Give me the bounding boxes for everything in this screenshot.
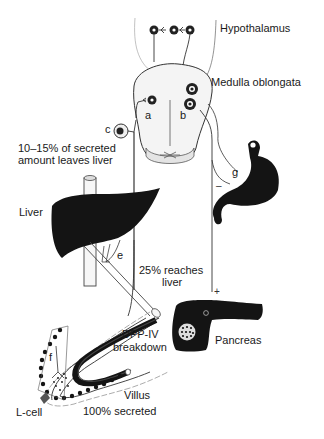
label-dpp-iv-line2: breakdown — [113, 341, 167, 353]
label-100-secreted: 100% secreted — [83, 405, 156, 417]
label-liver: Liver — [19, 206, 43, 218]
liver-shape — [51, 188, 160, 258]
pathway-letter-c: c — [105, 123, 111, 135]
glp1-pathway-diagram: Hypothalamus Medulla oblongata 10–15% of… — [0, 0, 324, 439]
label-medulla-oblongata: Medulla oblongata — [211, 76, 301, 88]
pathway-letter-a: a — [145, 109, 151, 121]
label-reaches-liver-line2: liver — [162, 276, 182, 288]
pathway-letter-b: b — [180, 109, 186, 121]
label-leaves-liver-line2: amount leaves liver — [18, 154, 113, 166]
label-villus: Villus — [124, 389, 150, 401]
pathway-letter-g: g — [232, 166, 238, 178]
inhibition-sign-stomach: – — [216, 180, 222, 191]
label-hypothalamus: Hypothalamus — [220, 22, 290, 34]
pathway-letter-f: f — [49, 351, 52, 363]
pathway-letter-e: e — [117, 249, 123, 261]
label-leaves-liver-line1: 10–15% of secreted — [18, 142, 116, 154]
diagram-graphics — [0, 0, 324, 439]
label-dpp-iv-line1: DPP-IV — [122, 328, 159, 340]
label-reaches-liver-line1: 25% reaches — [139, 264, 203, 276]
stimulation-sign-pancreas: + — [214, 286, 220, 297]
label-pancreas: Pancreas — [215, 334, 261, 346]
label-l-cell: L-cell — [16, 406, 42, 418]
